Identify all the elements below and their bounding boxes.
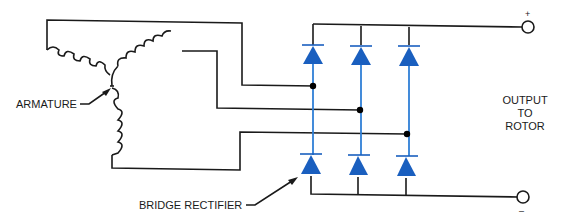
negative-terminal: [517, 191, 529, 203]
diode-upper-1: [302, 45, 324, 64]
bridge-rectifier-leader: [246, 177, 298, 205]
negative-rail: [311, 176, 518, 197]
output-label-line2: TO: [517, 107, 533, 119]
bridge-rectifier-label: BRIDGE RECTIFIER: [139, 199, 242, 211]
diode-upper-3: [398, 46, 420, 66]
armature-label: ARMATURE: [16, 98, 77, 110]
diode-lower-1: [300, 154, 322, 174]
diode-upper-2: [350, 46, 372, 65]
negative-sign: –: [519, 206, 524, 216]
output-label-line3: ROTOR: [505, 120, 545, 132]
diode-lower-3: [396, 156, 418, 176]
alternator-rectifier-diagram: ARMATURE: [0, 0, 563, 222]
diode-lower-2: [348, 155, 370, 175]
positive-rail: [313, 24, 522, 45]
output-label: OUTPUT TO ROTOR: [502, 94, 548, 132]
positive-terminal: [522, 21, 534, 33]
positive-sign: +: [525, 9, 530, 19]
armature-leader: [80, 88, 111, 104]
upper-diodes: [302, 45, 420, 66]
lower-diodes: [300, 154, 418, 176]
armature-coils: [47, 31, 171, 155]
output-label-line1: OUTPUT: [502, 94, 548, 106]
